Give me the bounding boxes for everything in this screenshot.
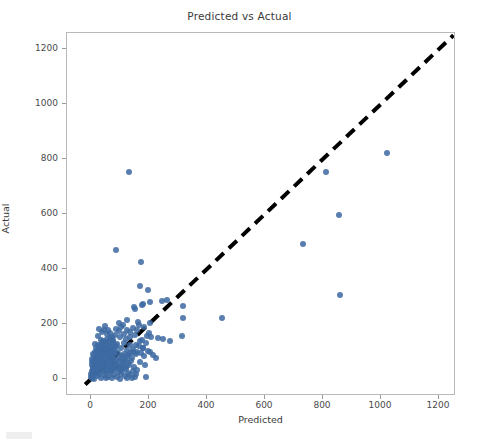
y-tick-mark xyxy=(62,268,66,269)
y-tick-label: 0 xyxy=(52,373,58,383)
x-tick-mark xyxy=(90,395,91,399)
x-tick-label: 0 xyxy=(87,400,93,410)
x-tick-label: 1200 xyxy=(427,400,450,410)
x-tick-mark xyxy=(148,395,149,399)
page-artifact xyxy=(6,432,32,439)
x-tick-label: 800 xyxy=(313,400,330,410)
y-tick-label: 800 xyxy=(41,153,58,163)
x-tick-label: 400 xyxy=(197,400,214,410)
x-tick-label: 1000 xyxy=(369,400,392,410)
x-tick-mark xyxy=(206,395,207,399)
y-tick-mark xyxy=(62,103,66,104)
y-tick-mark xyxy=(62,378,66,379)
y-tick-label: 1200 xyxy=(35,43,58,53)
chart-title: Predicted vs Actual xyxy=(0,10,479,22)
y-tick-mark xyxy=(62,48,66,49)
y-tick-mark xyxy=(62,213,66,214)
x-tick-mark xyxy=(380,395,381,399)
plot-area xyxy=(66,32,455,395)
x-axis-label: Predicted xyxy=(66,414,455,425)
y-axis-label: Actual xyxy=(0,204,11,234)
x-tick-label: 200 xyxy=(139,400,156,410)
x-tick-label: 600 xyxy=(255,400,272,410)
y-tick-label: 1000 xyxy=(35,98,58,108)
y-tick-label: 200 xyxy=(41,318,58,328)
y-tick-label: 600 xyxy=(41,208,58,218)
x-tick-mark xyxy=(322,395,323,399)
x-tick-mark xyxy=(438,395,439,399)
figure-canvas: Predicted vs Actual 02004006008001000120… xyxy=(0,0,479,444)
y-tick-mark xyxy=(62,323,66,324)
identity-reference-line xyxy=(67,33,455,395)
y-tick-mark xyxy=(62,158,66,159)
y-tick-label: 400 xyxy=(41,263,58,273)
x-tick-mark xyxy=(264,395,265,399)
